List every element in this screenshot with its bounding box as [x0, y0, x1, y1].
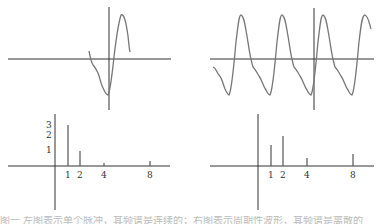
- xtick-2: 2: [280, 170, 286, 180]
- xtick-8: 8: [147, 170, 153, 180]
- xtick-1: 1: [65, 170, 71, 180]
- xtick-8: 8: [350, 170, 356, 180]
- periodic-curve: [213, 15, 371, 95]
- periodic-plot: [210, 8, 374, 110]
- periodic-spectrum: 1 2 4 8: [210, 114, 374, 210]
- figure: 3 2 1 1 2 4 8 1 2 4 8: [0, 0, 380, 224]
- pulse-plot: [8, 7, 171, 110]
- xtick-4: 4: [304, 170, 310, 180]
- ytick-1: 1: [46, 145, 52, 155]
- xtick-2: 2: [77, 170, 83, 180]
- ytick-3: 3: [46, 120, 52, 130]
- xtick-1: 1: [268, 170, 274, 180]
- xtick-4: 4: [101, 170, 107, 180]
- ytick-2: 2: [46, 130, 52, 140]
- figure-caption: 图一 左图表示单个脉冲，其频谱是连续的；右图表示周期性波形，其频谱是离散的: [0, 216, 380, 224]
- pulse-spectrum: 3 2 1 1 2 4 8: [8, 114, 170, 210]
